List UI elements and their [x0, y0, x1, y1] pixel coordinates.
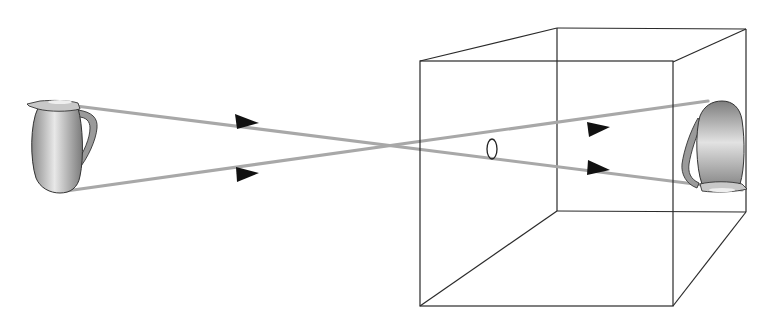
pinhole: [487, 139, 497, 159]
arrow-icon: [236, 167, 259, 182]
pitcher-opening: [48, 100, 72, 104]
pinhole-camera-diagram: [0, 0, 769, 332]
light-rays: [52, 101, 742, 191]
box-back-top-edge: [557, 28, 746, 29]
box-top-right-depth-edge: [673, 29, 746, 62]
box-top-left-depth-edge: [420, 28, 557, 61]
inverted-pitcher-body: [697, 101, 744, 184]
inverted-pitcher-opening: [709, 188, 735, 192]
pitcher-body: [32, 108, 83, 193]
arrow-icon: [587, 122, 610, 137]
pitcher-object: [27, 100, 97, 193]
camera-box-front: [420, 61, 673, 306]
box-front-face: [420, 61, 673, 306]
camera-box: [420, 28, 746, 306]
ray-bottom-to-top: [66, 101, 708, 191]
box-bottom-right-depth-edge: [673, 212, 746, 306]
box-bottom-left-depth-edge: [420, 211, 557, 306]
pitcher-image-inverted: [682, 101, 747, 192]
box-back-bottom-edge: [557, 211, 746, 212]
